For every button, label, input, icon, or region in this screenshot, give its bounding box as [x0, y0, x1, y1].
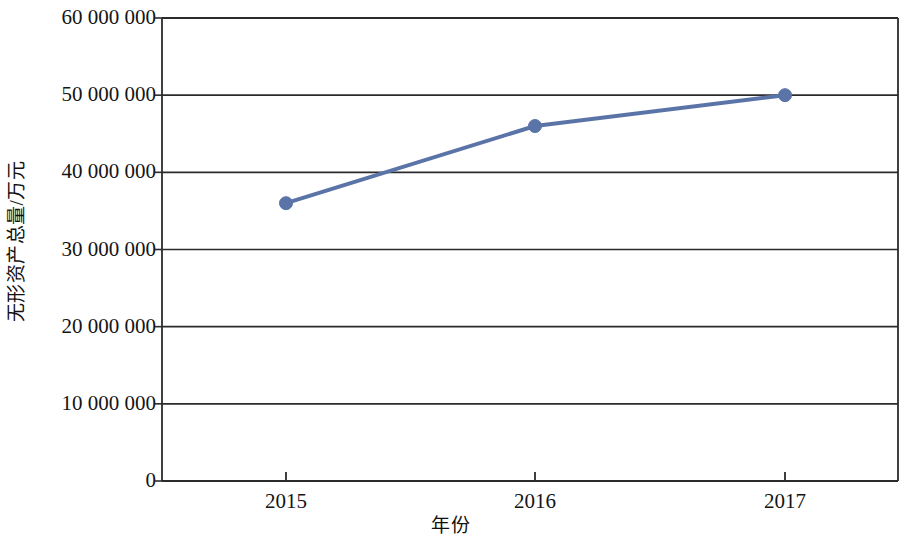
line-chart: 无形资产总量/万元 010 000 00020 000 00030 000 00… — [0, 0, 902, 555]
data-series-layer — [280, 89, 792, 210]
series-line — [286, 95, 785, 203]
series-data-point[interactable] — [779, 89, 792, 102]
gridlines — [162, 95, 898, 404]
series-data-point[interactable] — [280, 197, 293, 210]
plot-area — [0, 0, 902, 555]
series-data-point[interactable] — [529, 120, 542, 133]
